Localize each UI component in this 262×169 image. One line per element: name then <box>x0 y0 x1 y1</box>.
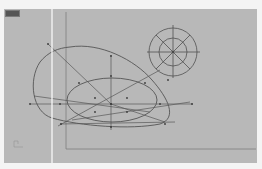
inner-ellipse[interactable] <box>67 78 157 122</box>
world-axis-icon <box>14 141 23 147</box>
circle-crosshair-icon[interactable] <box>147 25 200 78</box>
grid-axes <box>66 12 256 149</box>
cad-viewport[interactable] <box>4 9 257 163</box>
viewport-canvas[interactable] <box>4 9 257 163</box>
outer-curve[interactable] <box>33 46 169 127</box>
